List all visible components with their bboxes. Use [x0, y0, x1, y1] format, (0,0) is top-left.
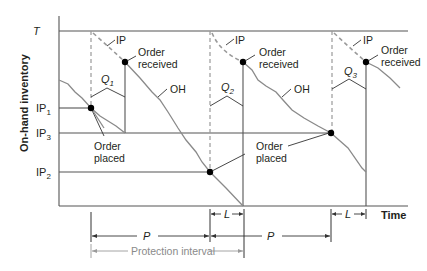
ip3-label: IP3 — [36, 127, 51, 142]
p1-arrowhead-left — [92, 234, 97, 238]
received-leader-3 — [368, 55, 378, 61]
oh-label-2: OH — [294, 83, 310, 95]
oh-label-1: OH — [170, 83, 186, 95]
x-axis-label: Time — [381, 209, 406, 221]
l-label-1: L — [224, 208, 230, 220]
placed-leader-2 — [212, 154, 245, 171]
l2-arrowhead-right — [361, 212, 365, 216]
order-received-label-1b: received — [138, 58, 178, 70]
ip-curve-label-2: IP — [235, 34, 245, 46]
order-placed-label-2a: Order — [256, 140, 283, 152]
order-received-label-2a: Order — [259, 46, 286, 58]
received-leader-2 — [245, 55, 255, 61]
target-label: T — [33, 25, 41, 37]
order-placed-label-1b: placed — [94, 152, 125, 164]
ip-curve-label-3: IP — [363, 34, 373, 46]
q3-brace — [332, 79, 366, 89]
order-received-label-3a: Order — [381, 44, 408, 56]
q1-label: Q1 — [101, 73, 114, 88]
ip2-label: IP2 — [36, 166, 51, 181]
p2-arrowhead-right — [325, 234, 330, 238]
ip-leader-2 — [226, 39, 234, 45]
order-placed-dot-2 — [207, 169, 213, 175]
l1-arrowhead-right — [239, 212, 243, 216]
q3-label: Q3 — [344, 65, 358, 80]
q2-brace — [210, 96, 243, 106]
p-label-2: P — [267, 230, 275, 242]
received-leader-1 — [127, 56, 136, 61]
p2-arrowhead-left — [211, 234, 216, 238]
q1-brace — [91, 88, 125, 97]
l2-arrowhead-left — [332, 212, 336, 216]
order-received-label-1a: Order — [138, 46, 165, 58]
placed-leader-3 — [288, 133, 329, 146]
q2-label: Q2 — [221, 81, 235, 96]
p-system-diagram: T IP1 IP3 IP2 On-hand inventory Time IP … — [0, 0, 427, 271]
order-placed-dot-1 — [88, 105, 94, 111]
order-received-label-2b: received — [259, 58, 299, 70]
p-label-1: P — [143, 230, 151, 242]
ip-curve-3 — [334, 33, 366, 62]
protection-interval-label: Protection interval — [131, 245, 215, 257]
p1-arrowhead-right — [204, 234, 209, 238]
order-received-dot-1 — [122, 59, 128, 65]
order-placed-label-2b: placed — [256, 152, 287, 164]
order-received-dot-2 — [240, 59, 246, 65]
order-placed-label-1a: Order — [94, 140, 121, 152]
ip-leader-1 — [107, 40, 115, 46]
ip-curve-label-1: IP — [116, 34, 126, 46]
y-axis-label: On-hand inventory — [18, 53, 30, 152]
order-received-label-3b: received — [381, 56, 421, 68]
order-received-dot-3 — [363, 59, 369, 65]
order-placed-pointer-1 — [91, 108, 104, 136]
oh-leader-2 — [282, 89, 291, 97]
ip1-label: IP1 — [36, 102, 51, 117]
l1-arrowhead-left — [211, 212, 215, 216]
l-label-2: L — [345, 208, 351, 220]
ip-leader-3 — [353, 40, 361, 46]
protection-arrowhead-right — [238, 249, 243, 253]
oh-leader-1 — [158, 89, 167, 97]
protection-arrowhead-left — [92, 249, 97, 253]
